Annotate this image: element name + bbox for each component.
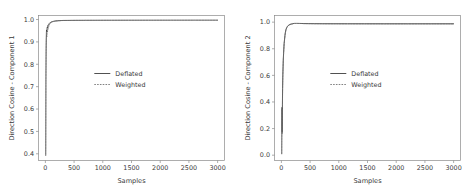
y-tick-label-2: 0.4 [260,98,270,106]
x-tick-label-5: 2500 [181,164,197,172]
y-tick-label-1: 0.5 [24,128,34,136]
plot-area-2: 050010001500200025003000 0.00.20.40.60.8… [244,16,462,186]
x-tick-label-4: 2000 [152,164,168,172]
x-axis-title-1: Samples [117,177,146,185]
legend-2: DeflatedWeighted [330,70,381,89]
x-tick-label-3: 1500 [123,164,139,172]
y-tick-label-0: 0.4 [24,150,34,158]
x-tick-label-1: 500 [68,164,80,172]
x-tick-label-5: 2500 [417,164,433,172]
x-tickmarks-1 [45,161,217,164]
x-axis-title-2: Samples [353,177,382,185]
y-tick-label-6: 1.0 [24,16,34,24]
y-tick-label-3: 0.7 [24,83,34,91]
y-tick-label-0: 0.0 [260,151,270,159]
chart-svg-2: 050010001500200025003000 0.00.20.40.60.8… [236,0,472,195]
legend-label-deflated: Deflated [351,70,378,78]
x-tick-label-1: 500 [304,164,316,172]
x-tick-label-0: 0 [43,164,47,172]
y-tick-labels-1: 0.40.50.60.70.80.91.0 [24,16,34,158]
x-tick-label-3: 1500 [359,164,375,172]
y-tick-label-4: 0.8 [260,45,270,53]
y-axis-title-2: Direction Cosine - Component 2 [244,35,252,140]
y-axis-title-1: Direction Cosine - Component 1 [8,35,16,140]
chart-panel-component-1: 050010001500200025003000 0.40.50.60.70.8… [0,0,236,195]
x-tick-label-0: 0 [279,164,283,172]
x-tick-label-2: 1000 [331,164,347,172]
legend-1: DeflatedWeighted [94,70,145,89]
x-tickmarks-2 [281,161,453,164]
y-tick-label-4: 0.8 [24,61,34,69]
y-tickmarks-1 [36,20,39,154]
figure-container: 050010001500200025003000 0.40.50.60.70.8… [0,0,472,195]
y-tick-label-3: 0.6 [260,72,270,80]
legend-label-deflated: Deflated [115,70,142,78]
y-tick-label-1: 0.2 [260,125,270,133]
x-tick-label-2: 1000 [95,164,111,172]
legend-label-weighted: Weighted [351,81,381,89]
plot-area-1: 050010001500200025003000 0.40.50.60.70.8… [8,16,226,186]
x-tick-labels-1: 050010001500200025003000 [43,164,225,172]
x-tick-label-6: 3000 [445,164,461,172]
y-tickmarks-2 [272,22,275,155]
y-tick-label-5: 1.0 [260,18,270,26]
y-tick-labels-2: 0.00.20.40.60.81.0 [260,18,270,159]
x-tick-label-6: 3000 [209,164,225,172]
y-tick-label-5: 0.9 [24,38,34,46]
chart-svg-1: 050010001500200025003000 0.40.50.60.70.8… [0,0,236,195]
y-tick-label-2: 0.6 [24,105,34,113]
x-tick-labels-2: 050010001500200025003000 [279,164,461,172]
legend-label-weighted: Weighted [115,81,145,89]
x-tick-label-4: 2000 [388,164,404,172]
chart-panel-component-2: 050010001500200025003000 0.00.20.40.60.8… [236,0,472,195]
